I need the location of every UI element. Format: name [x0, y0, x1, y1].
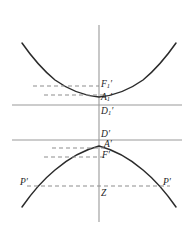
label-upper-focus: F1′	[101, 80, 112, 90]
label-lower-vertex-prime: ′	[110, 139, 112, 149]
label-origin-text: Z	[101, 188, 106, 198]
label-upper-vertex-prime: ′	[110, 92, 112, 102]
figure-canvas	[0, 0, 186, 235]
label-lower-vertex: A′	[104, 140, 112, 150]
label-lower-directrix-text: D	[101, 129, 108, 139]
label-lower-directrix-prime: ′	[108, 129, 110, 139]
label-point-right-prime: ′	[169, 177, 171, 187]
label-lower-focus-prime: ′	[108, 150, 110, 160]
label-upper-focus-prime: ′	[110, 79, 112, 89]
label-upper-directrix-text: D	[101, 106, 108, 116]
label-point-left-prime: ′	[26, 177, 28, 187]
label-upper-vertex: A1′	[101, 93, 112, 103]
label-lower-focus: F′	[102, 151, 110, 161]
label-point-left: P′	[20, 178, 28, 188]
label-point-right: P′	[163, 178, 171, 188]
label-upper-directrix-prime: ′	[111, 106, 113, 116]
geometry-figure: F1′ A1′ D1′ D′ A′ F′ P′ P′ Z	[0, 0, 186, 235]
label-origin: Z	[101, 189, 106, 199]
label-upper-directrix: D1′	[101, 107, 113, 117]
